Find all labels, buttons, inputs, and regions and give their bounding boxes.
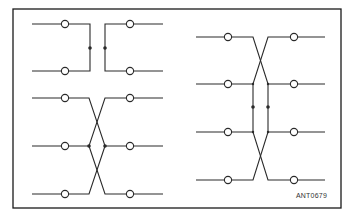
terminal-circle: [61, 67, 68, 74]
line-row1-right: [32, 98, 163, 146]
terminal-circle: [126, 20, 133, 27]
terminal-circle: [126, 94, 133, 101]
terminal-circle: [126, 142, 133, 149]
terminal-circle: [126, 190, 133, 197]
group-three-line-crossover: [32, 98, 163, 194]
terminal-circle: [126, 67, 133, 74]
terminal-circle: [224, 176, 231, 183]
junction-dot: [103, 46, 107, 50]
junction-dot: [267, 83, 269, 85]
terminal-circle: [290, 128, 297, 135]
junction-dot: [252, 131, 254, 133]
terminal-circle: [224, 128, 231, 135]
terminal-circle: [290, 80, 297, 87]
junction-dot: [251, 105, 255, 109]
junction-dot: [103, 144, 107, 148]
terminal-circle: [61, 190, 68, 197]
schematic-diagram: [0, 0, 352, 218]
terminal-circle: [290, 33, 297, 40]
terminal-circle: [61, 20, 68, 27]
terminal-circle: [224, 33, 231, 40]
junction-dot: [267, 131, 269, 133]
junction-dot: [87, 144, 91, 148]
line-r1-right: [196, 37, 325, 84]
junction-dots-four: [251, 83, 270, 133]
line-right-top: [105, 24, 163, 71]
junction-dots-pair: [88, 46, 107, 50]
junction-dot: [266, 105, 270, 109]
terminal-circle: [61, 94, 68, 101]
group-four-line-crossover: [196, 37, 325, 180]
line-row3-right: [89, 146, 163, 194]
line-left-top: [32, 24, 90, 71]
terminal-circle: [61, 142, 68, 149]
terminal-circle: [290, 176, 297, 183]
junction-dot: [88, 46, 92, 50]
junction-dots-three: [87, 144, 107, 148]
junction-dot: [252, 83, 254, 85]
line-row3-left: [32, 146, 105, 194]
line-r3-right: [196, 132, 325, 180]
terminal-circle: [224, 80, 231, 87]
group-parallel-pair: [32, 24, 163, 71]
figure-id-label: ANT0679: [296, 192, 327, 199]
